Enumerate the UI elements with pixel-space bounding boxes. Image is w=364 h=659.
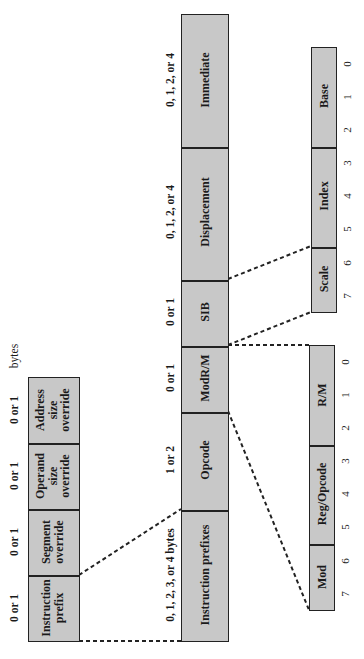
prefix-field-instruction: Instructionprefix [40, 579, 65, 636]
field-displacement: Displacement [199, 177, 212, 246]
sib-field-base: Base [318, 84, 331, 108]
modrm-bit-1: 1 [340, 392, 352, 398]
field-immediate: Immediate [199, 52, 212, 107]
sib-field-index: Index [318, 181, 331, 210]
modrm-field-mod: Mod [316, 565, 329, 589]
sib-bit-0: 0 [342, 61, 354, 67]
prefix-field-address: Addresssizeoverride [34, 388, 72, 431]
prefix-size-instruction: 0 or 1 [8, 594, 20, 622]
main-size-sib: 0 or 1 [164, 298, 176, 326]
modrm-bit-7: 7 [340, 591, 352, 597]
sib-bit-3: 3 [342, 160, 354, 166]
sib-field-scale: Scale [318, 266, 331, 293]
modrm-bit-6: 6 [340, 558, 352, 564]
field-opcode: Opcode [199, 440, 212, 479]
modrm-bit-2: 2 [340, 425, 352, 431]
prefix-size-segment: 0 or 1 [8, 528, 20, 556]
main-size-prefixes: 0, 1, 2, 3, or 4 bytes [164, 528, 176, 622]
prefix-size-operand: 0 or 1 [8, 462, 20, 490]
sib-connector-bottom [228, 312, 311, 345]
sib-connector-top [228, 246, 311, 279]
sib-bit-1: 1 [342, 94, 354, 100]
modrm-bit-5: 5 [340, 524, 352, 530]
main-size-immediate: 0, 1, 2, or 4 [164, 53, 176, 107]
field-sib: SIB [199, 302, 212, 321]
sib-bit-2: 2 [342, 127, 354, 133]
prefix-field-segment: Segmentoverride [40, 520, 65, 564]
sib-bit-4: 4 [342, 193, 354, 199]
modrm-bit-3: 3 [340, 458, 352, 464]
main-size-displacement: 0, 1, 2, or 4 [164, 185, 176, 239]
prefix-size-address: 0 or 1 [8, 396, 20, 424]
field-instruction-prefixes: Instruction prefixes [199, 525, 212, 626]
sib-bit-7: 7 [342, 293, 354, 299]
modrm-bit-4: 4 [340, 491, 352, 497]
main-size-modrm: 0 or 1 [164, 364, 176, 392]
field-modrm: ModR/M [199, 354, 212, 401]
units-label: bytes [8, 344, 20, 368]
modrm-bit-0: 0 [340, 359, 352, 365]
sib-bit-5: 5 [342, 226, 354, 232]
modrm-field-rm: R/M [316, 383, 329, 406]
main-size-opcode: 1 or 2 [164, 446, 176, 474]
prefix-field-operand: Operandsizeoverride [34, 453, 72, 499]
sib-bit-6: 6 [342, 260, 354, 266]
modrm-connector-bottom [228, 411, 309, 610]
modrm-field-reg-opcode: Reg/Opcode [316, 463, 329, 526]
